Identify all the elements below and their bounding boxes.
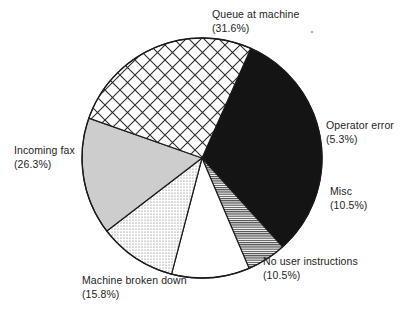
pie-label-queue-at-machine: Queue at machine (31.6%)	[212, 8, 299, 35]
pie-label-incoming-fax-name: Incoming fax	[14, 144, 75, 158]
pie-label-machine-broken-down-name: Machine broken down	[82, 274, 187, 288]
pie-label-incoming-fax-percent: (26.3%)	[14, 158, 75, 172]
pie-label-queue-at-machine-name: Queue at machine	[212, 8, 299, 22]
pie-slices	[82, 38, 322, 278]
pie-label-misc-name: Misc	[330, 185, 367, 199]
pie-label-machine-broken-down-percent: (15.8%)	[82, 288, 187, 302]
pie-label-misc-percent: (10.5%)	[330, 199, 367, 213]
pie-chart-figure: Queue at machine (31.6%) Operator error …	[0, 0, 409, 314]
pie-label-no-user-instructions-name: No user instructions	[263, 255, 358, 269]
pie-label-no-user-instructions-percent: (10.5%)	[263, 269, 358, 283]
pie-label-operator-error-percent: (5.3%)	[326, 133, 394, 147]
pie-label-operator-error-name: Operator error	[326, 119, 394, 133]
pie-label-operator-error: Operator error (5.3%)	[326, 119, 394, 146]
pie-label-incoming-fax: Incoming fax (26.3%)	[14, 144, 75, 171]
pie-label-machine-broken-down: Machine broken down (15.8%)	[82, 274, 187, 301]
pie-label-misc: Misc (10.5%)	[330, 185, 367, 212]
pie-label-no-user-instructions: No user instructions (10.5%)	[263, 255, 358, 282]
pie-label-queue-at-machine-percent: (31.6%)	[212, 22, 299, 36]
scan-speck-artifact	[311, 31, 313, 33]
